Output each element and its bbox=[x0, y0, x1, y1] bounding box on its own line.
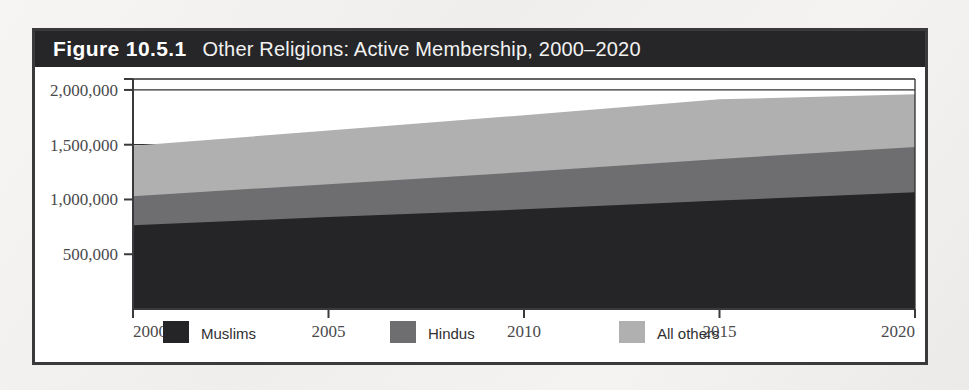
y-tick-label-1500000: 1,500,000 bbox=[50, 136, 118, 155]
legend-label-all-others: All others bbox=[657, 325, 720, 342]
stacked-area-chart: 500,0001,000,0001,500,0002,000,000 20002… bbox=[35, 67, 925, 366]
x-tick-label-2000: 2000 bbox=[133, 322, 167, 341]
legend-swatch-muslims bbox=[163, 321, 189, 343]
chart-legend: MuslimsHindusAll others bbox=[163, 321, 720, 343]
x-tick-label-2005: 2005 bbox=[312, 322, 346, 341]
figure-title-bar: Figure 10.5.1 Other Religions: Active Me… bbox=[35, 31, 925, 67]
legend-label-hindus: Hindus bbox=[428, 325, 475, 342]
y-tick-label-500000: 500,000 bbox=[63, 245, 118, 264]
y-tick-label-2000000: 2,000,000 bbox=[50, 81, 118, 100]
y-tick-label-1000000: 1,000,000 bbox=[50, 190, 118, 209]
x-tick-label-2020: 2020 bbox=[881, 322, 915, 341]
area-series-group bbox=[133, 94, 915, 309]
legend-swatch-all-others bbox=[619, 321, 645, 343]
figure-frame: Figure 10.5.1 Other Religions: Active Me… bbox=[32, 28, 928, 365]
chart-area: 500,0001,000,0001,500,0002,000,000 20002… bbox=[35, 67, 925, 368]
x-tick-label-2010: 2010 bbox=[507, 322, 541, 341]
legend-label-muslims: Muslims bbox=[201, 325, 256, 342]
y-axis-ticks: 500,0001,000,0001,500,0002,000,000 bbox=[50, 79, 133, 264]
figure-number: Figure 10.5.1 bbox=[53, 37, 187, 61]
page-title: Other Religions: Active Membership, 2000… bbox=[203, 38, 641, 61]
legend-swatch-hindus bbox=[390, 321, 416, 343]
